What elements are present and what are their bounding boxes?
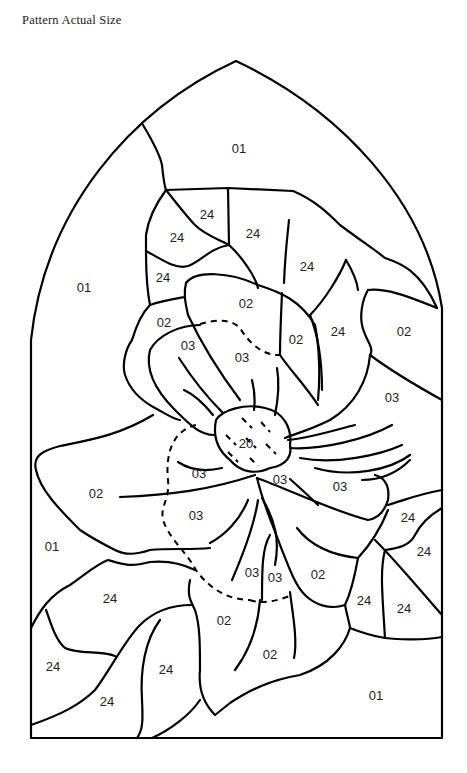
piece-number-label: 02 [311, 567, 325, 582]
piece-number-label: 03 [235, 350, 249, 365]
piece-number-label: 03 [192, 466, 206, 481]
piece-number-label: 02 [263, 647, 277, 662]
piece-number-label: 24 [397, 601, 411, 616]
piece-number-label: 01 [77, 280, 91, 295]
piece-number-label: 01 [369, 688, 383, 703]
piece-number-label: 24 [103, 591, 117, 606]
piece-number-label: 24 [357, 593, 371, 608]
piece-number-label: 24 [417, 544, 431, 559]
piece-number-label: 03 [385, 390, 399, 405]
piece-number-label: 24 [200, 207, 214, 222]
piece-number-label: 03 [189, 508, 203, 523]
piece-number-label: 24 [401, 510, 415, 525]
piece-number-label: 02 [397, 324, 411, 339]
piece-number-label: 01 [232, 141, 246, 156]
piece-number-labels: 0101010124242424242424242424242424240202… [0, 0, 467, 773]
piece-number-label: 24 [100, 694, 114, 709]
piece-number-label: 24 [46, 659, 60, 674]
piece-number-label: 03 [333, 479, 347, 494]
piece-number-label: 24 [156, 270, 170, 285]
piece-number-label: 02 [89, 486, 103, 501]
piece-number-label: 24 [159, 662, 173, 677]
piece-number-label: 03 [181, 338, 195, 353]
piece-number-label: 01 [45, 539, 59, 554]
piece-number-label: 24 [170, 230, 184, 245]
piece-number-label: 02 [289, 332, 303, 347]
piece-number-label: 24 [246, 226, 260, 241]
piece-number-label: 02 [239, 296, 253, 311]
piece-number-label: 03 [245, 565, 259, 580]
piece-number-label: 20 [239, 436, 253, 451]
piece-number-label: 02 [157, 315, 171, 330]
piece-number-label: 24 [331, 324, 345, 339]
piece-number-label: 24 [300, 259, 314, 274]
piece-number-label: 03 [268, 570, 282, 585]
piece-number-label: 03 [273, 472, 287, 487]
piece-number-label: 02 [217, 613, 231, 628]
